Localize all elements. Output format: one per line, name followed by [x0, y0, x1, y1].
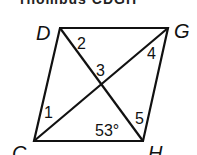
- vertex-label-g: G: [174, 20, 190, 42]
- vertex-label-c: C: [12, 142, 27, 155]
- angle-label-4: 4: [147, 45, 156, 62]
- angle-label-5: 5: [135, 110, 144, 127]
- vertex-label-h: H: [148, 142, 163, 155]
- angle-label-3: 3: [96, 62, 105, 79]
- rhombus-diagram: D G H C 2 3 4 1 5 53°: [0, 0, 197, 155]
- angle-label-2: 2: [77, 35, 86, 52]
- angle-label-53-degrees: 53°: [95, 122, 119, 139]
- vertex-label-d: D: [36, 22, 50, 44]
- angle-label-1: 1: [44, 104, 53, 121]
